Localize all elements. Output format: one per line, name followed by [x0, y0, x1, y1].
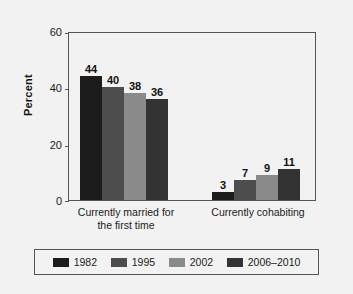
legend-swatch-2002-icon: [169, 258, 185, 267]
bar-cohabiting-1982[interactable]: [212, 192, 234, 200]
plot-area: 44 40 38 36 3 7 9 11: [68, 32, 316, 201]
legend: 1982 1995 2002 2006–2010: [34, 249, 319, 275]
legend-label-1995: 1995: [132, 256, 155, 268]
bar-value-married-2006-2010: 36: [140, 86, 174, 98]
legend-label-1982: 1982: [74, 256, 97, 268]
y-tick-mark-20: [65, 146, 69, 147]
figure-container: Percent 60 40 20 0 44 40 38 36 3 7 9 11 …: [0, 0, 353, 294]
x-group-label-married: Currently married for the first time: [60, 206, 192, 232]
legend-item-1995[interactable]: 1995: [111, 256, 155, 268]
bar-married-1982[interactable]: [80, 76, 102, 200]
y-tick-label-40: 40: [22, 82, 62, 94]
bar-value-cohabiting-1982: 3: [206, 179, 240, 191]
x-group-label-cohabiting: Currently cohabiting: [195, 206, 321, 219]
bar-value-married-1982: 44: [74, 63, 108, 75]
y-tick-mark-60: [65, 33, 69, 34]
bar-value-cohabiting-2006-2010: 11: [272, 156, 306, 168]
legend-swatch-2006-2010-icon: [227, 258, 243, 267]
y-tick-label-20: 20: [22, 139, 62, 151]
bar-married-1995[interactable]: [102, 87, 124, 200]
y-tick-label-60: 60: [22, 26, 62, 38]
y-tick-mark-0: [65, 201, 69, 202]
legend-label-2006-2010: 2006–2010: [248, 256, 301, 268]
legend-item-2006-2010[interactable]: 2006–2010: [227, 256, 301, 268]
y-axis-title: Percent: [22, 74, 34, 116]
legend-item-2002[interactable]: 2002: [169, 256, 213, 268]
y-tick-label-0: 0: [22, 195, 62, 207]
bar-cohabiting-2006-2010[interactable]: [278, 169, 300, 200]
legend-label-2002: 2002: [190, 256, 213, 268]
bar-married-2006-2010[interactable]: [146, 99, 168, 200]
legend-item-1982[interactable]: 1982: [53, 256, 97, 268]
bar-married-2002[interactable]: [124, 93, 146, 200]
legend-swatch-1982-icon: [53, 258, 69, 267]
legend-swatch-1995-icon: [111, 258, 127, 267]
y-tick-mark-40: [65, 89, 69, 90]
